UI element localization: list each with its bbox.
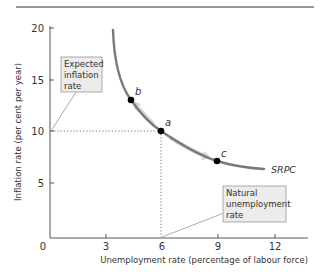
expected-box-line-1: Expected [64,59,104,69]
point-a-label: a [165,117,171,128]
y-tick-5: 5 [38,178,44,189]
point-c [214,158,221,165]
srpc-curve [113,30,264,169]
origin-label: 0 [40,241,46,252]
x-tick-12: 12 [269,241,282,252]
y-ticks [50,28,54,183]
natural-box-line-1: Natural [226,188,257,198]
point-a [158,128,165,135]
x-tick-3: 3 [103,241,109,252]
point-b [128,97,135,104]
y-axis-title: Inflation rate (per cent per year) [13,63,23,201]
natural-box-line-3: rate [226,210,243,220]
expected-box-line-3: rate [64,81,81,91]
y-tick-15: 15 [31,75,44,86]
x-ticks [106,234,275,238]
point-b-label: b [135,86,141,97]
x-tick-6: 6 [159,241,165,252]
point-c-label: c [221,148,227,159]
expected-box-line-2: inflation [64,70,99,80]
expected-box-leader [51,92,76,131]
y-tick-10: 10 [31,126,44,137]
movement-arrows [132,101,211,160]
x-tick-9: 9 [215,241,221,252]
natural-box-leader [162,213,224,237]
phillips-curve-chart: 20 15 10 5 0 3 6 9 12 Unemployment rate … [0,0,325,272]
x-axis-title: Unemployment rate (percentage of labour … [100,255,308,265]
y-tick-20: 20 [31,23,44,34]
natural-box-line-2: unemployment [226,199,291,209]
srpc-label: SRPC [271,164,296,175]
